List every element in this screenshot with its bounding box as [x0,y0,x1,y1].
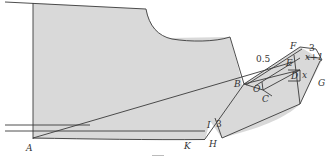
label-d: D [290,71,298,81]
label-e: E [285,58,293,68]
measure-x: x [302,70,307,80]
label-f: F [289,41,297,51]
measure-x-plus-1: x+1 [305,52,323,62]
label-b: B [233,79,241,89]
label-a: A [25,143,33,153]
label-k: K [183,141,192,151]
measure-3-ih: 3 [216,119,222,129]
label-c: C [262,94,269,104]
label-i: I [206,120,211,130]
label-o: O [253,84,261,94]
label-h: H [208,139,217,149]
measure-0-5: 0.5 [256,54,271,64]
pattern-diagram: A B O C E D F G I K H 0.5 3 x+1 x 3 [0,0,330,165]
caption-stub [152,155,164,156]
label-g: G [318,78,325,88]
